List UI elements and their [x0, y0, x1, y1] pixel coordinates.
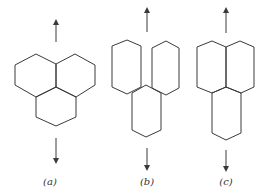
panel-label-c: (c) [219, 176, 233, 187]
hexagon-top-left [197, 41, 226, 93]
hexagon-bottom [132, 85, 161, 137]
panel-c: (c) [197, 10, 254, 187]
hexagon-top-right [152, 41, 179, 95]
hexagon-deformation-diagram: (a) (b) (c) [0, 0, 270, 195]
hexagon-top-left [112, 40, 141, 94]
panel-label-b: (b) [140, 176, 154, 187]
panel-label-a: (a) [43, 176, 57, 187]
hexagon-top-right [226, 41, 254, 93]
panel-b: (b) [112, 10, 179, 187]
hexagon-bottom [36, 87, 76, 126]
hexagon-bottom [212, 87, 241, 140]
hexagon-top-right [56, 54, 95, 97]
panel-a: (a) [15, 22, 95, 187]
